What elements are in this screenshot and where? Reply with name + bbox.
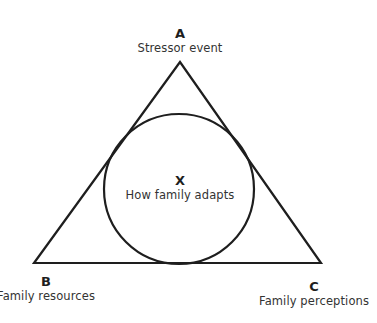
node-a: A Stressor event xyxy=(138,26,223,56)
node-b-caption: Family resources xyxy=(0,289,95,304)
node-x-caption: How family adapts xyxy=(126,188,235,203)
triangle-shape xyxy=(34,62,321,263)
node-b-letter: B xyxy=(0,274,95,289)
node-x: X How family adapts xyxy=(126,173,235,203)
node-a-caption: Stressor event xyxy=(138,41,223,56)
node-b: B Family resources xyxy=(0,274,95,304)
node-c: C Family perceptions xyxy=(259,279,369,309)
node-c-caption: Family perceptions xyxy=(259,294,369,309)
node-c-letter: C xyxy=(259,279,369,294)
node-x-letter: X xyxy=(126,173,235,188)
node-a-letter: A xyxy=(138,26,223,41)
